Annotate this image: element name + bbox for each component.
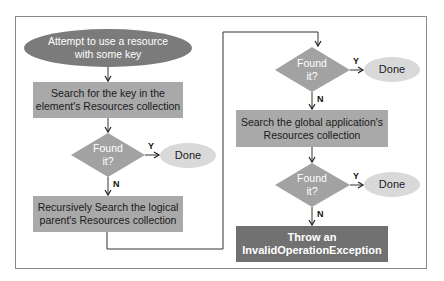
decision3-no-label: N bbox=[317, 209, 324, 219]
search-parent-line1: Recursively Search the logical bbox=[38, 201, 179, 214]
search-element-node: Search for the key in the element's Reso… bbox=[33, 82, 183, 118]
search-parent-node: Recursively Search the logical parent's … bbox=[33, 196, 183, 232]
throw-line1: Throw an bbox=[288, 231, 337, 244]
start-label-line2: with some key bbox=[75, 48, 142, 61]
decision2-no-label: N bbox=[317, 94, 324, 104]
done2-label: Done bbox=[379, 63, 405, 76]
decision2-line1: Found bbox=[297, 57, 327, 70]
throw-exception-node: Throw an InvalidOperationException bbox=[236, 226, 388, 262]
decision1-label: Found it? bbox=[78, 141, 138, 169]
done1-label: Done bbox=[175, 149, 201, 162]
decision1-yes-label: Y bbox=[148, 141, 154, 151]
decision3-line1: Found bbox=[297, 172, 327, 185]
done3-node: Done bbox=[364, 172, 420, 197]
flowchart-canvas: Attempt to use a resource with some key … bbox=[0, 0, 444, 281]
search-global-line2: Resources collection bbox=[264, 129, 361, 142]
search-global-node: Search the global application's Resource… bbox=[236, 110, 388, 147]
decision1-line2: it? bbox=[102, 155, 113, 168]
decision1-no-label: N bbox=[113, 179, 120, 189]
search-global-line1: Search the global application's bbox=[241, 116, 383, 129]
start-node: Attempt to use a resource with some key bbox=[24, 29, 192, 67]
search-element-line2: element's Resources collection bbox=[36, 100, 180, 113]
start-label-line1: Attempt to use a resource bbox=[48, 35, 168, 48]
decision1-line1: Found bbox=[93, 142, 123, 155]
decision2-yes-label: Y bbox=[353, 56, 359, 66]
search-parent-line2: parent's Resources collection bbox=[40, 214, 177, 227]
decision3-yes-label: Y bbox=[353, 171, 359, 181]
search-element-line1: Search for the key in the bbox=[51, 87, 165, 100]
decision2-line2: it? bbox=[306, 70, 317, 83]
done1-node: Done bbox=[160, 143, 216, 168]
decision3-label: Found it? bbox=[282, 171, 342, 199]
decision2-label: Found it? bbox=[282, 56, 342, 84]
done2-node: Done bbox=[364, 57, 420, 82]
throw-line2: InvalidOperationException bbox=[242, 244, 381, 257]
decision3-line2: it? bbox=[306, 185, 317, 198]
done3-label: Done bbox=[379, 178, 405, 191]
